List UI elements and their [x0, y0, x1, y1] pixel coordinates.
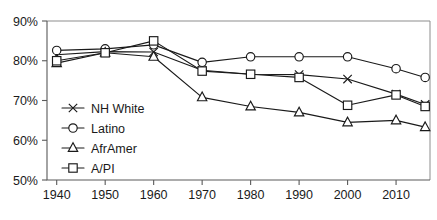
- x-axis-label: 1990: [285, 188, 313, 202]
- marker-circle: [198, 58, 206, 66]
- legend-entry-nh-white[interactable]: NH White: [62, 102, 145, 116]
- y-axis-label: 90%: [13, 15, 38, 29]
- marker-square: [246, 70, 254, 78]
- x-axis-label: 2000: [334, 188, 362, 202]
- marker-square: [343, 101, 351, 109]
- legend-label: NH White: [91, 102, 145, 116]
- x-axis-label: 1950: [91, 188, 119, 202]
- marker-circle: [421, 73, 429, 81]
- legend-label: Latino: [91, 122, 125, 136]
- marker-square: [52, 57, 60, 65]
- line-chart: 50%60%70%80%90%1940195019601970198019902…: [0, 0, 437, 220]
- series-line: [57, 45, 425, 78]
- marker-square: [69, 164, 77, 172]
- x-axis-label: 1960: [140, 188, 168, 202]
- y-axis-label: 70%: [13, 94, 38, 108]
- x-axis-label: 2010: [382, 188, 410, 202]
- marker-square: [421, 102, 429, 110]
- y-axis-label: 60%: [13, 134, 38, 148]
- marker-circle: [295, 53, 303, 61]
- marker-circle: [52, 46, 60, 54]
- marker-circle: [392, 65, 400, 73]
- marker-square: [101, 49, 109, 57]
- marker-circle: [343, 53, 351, 61]
- marker-circle: [246, 53, 254, 61]
- x-axis-label: 1940: [43, 188, 71, 202]
- legend-entry-a-pi[interactable]: A/PI: [62, 162, 115, 176]
- marker-triangle: [197, 92, 206, 101]
- y-axis-label: 50%: [13, 174, 38, 188]
- series-latino: [52, 41, 429, 82]
- marker-square: [198, 67, 206, 75]
- x-axis-label: 1970: [188, 188, 216, 202]
- marker-square: [392, 91, 400, 99]
- legend-label: A/PI: [91, 162, 115, 176]
- legend-label: AfrAmer: [91, 142, 137, 156]
- chart-canvas: 50%60%70%80%90%1940195019601970198019902…: [0, 0, 437, 220]
- marker-triangle: [391, 115, 400, 124]
- series-aframer: [52, 48, 430, 131]
- x-axis-label: 1980: [237, 188, 265, 202]
- marker-square: [295, 73, 303, 81]
- marker-triangle: [68, 143, 77, 152]
- marker-circle: [69, 124, 77, 132]
- y-axis-label: 80%: [13, 54, 38, 68]
- legend-entry-latino[interactable]: Latino: [62, 122, 125, 136]
- marker-square: [149, 37, 157, 45]
- legend-entry-aframer[interactable]: AfrAmer: [62, 142, 137, 156]
- series-line: [57, 41, 425, 107]
- series-line: [57, 52, 425, 105]
- series-line: [57, 53, 425, 127]
